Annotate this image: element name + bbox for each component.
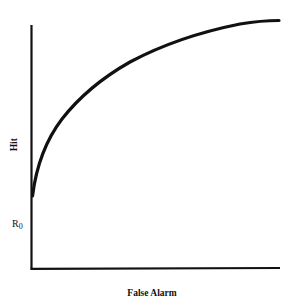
roc-curve [33,21,280,197]
y-axis-label: Hit [10,132,20,158]
plot-area [0,0,292,306]
r0-subscript: 0 [19,222,23,231]
r0-main: R [12,218,19,229]
x-axis-label: False Alarm [102,289,202,299]
x-axis [31,268,281,269]
roc-figure: Hit R0 False Alarm [0,0,292,306]
r0-label: R0 [12,219,23,231]
